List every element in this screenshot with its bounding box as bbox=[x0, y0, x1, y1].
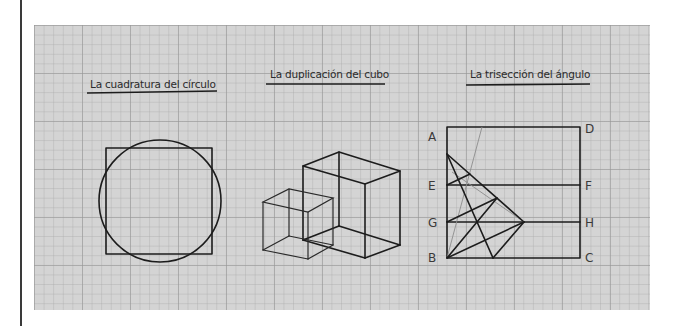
label-point-C: C bbox=[585, 251, 593, 265]
circle-shape bbox=[99, 140, 221, 262]
label-point-E: E bbox=[428, 179, 436, 193]
label-point-F: F bbox=[585, 179, 592, 193]
small-cube bbox=[263, 189, 333, 259]
label-point-G: G bbox=[428, 216, 437, 230]
title-underline bbox=[87, 91, 217, 93]
label-point-A: A bbox=[428, 130, 437, 144]
panel-trisecting-angle: La trisección del ángulo A D E F G H B C bbox=[428, 68, 594, 265]
geometry-figures: La cuadratura del círculo La duplicación… bbox=[0, 0, 674, 326]
panel-doubling-cube: La duplicación del cubo bbox=[263, 68, 400, 259]
label-point-B: B bbox=[428, 251, 436, 265]
label-point-H: H bbox=[585, 216, 594, 230]
panel-squaring-circle: La cuadratura del círculo bbox=[87, 78, 221, 262]
trisection-lines bbox=[447, 154, 524, 258]
panel-title-cube: La duplicación del cubo bbox=[270, 68, 389, 80]
rectangle-ABCD bbox=[447, 127, 580, 258]
panel-title-angle: La trisección del ángulo bbox=[470, 68, 590, 80]
panel-title-circle: La cuadratura del círculo bbox=[90, 78, 216, 90]
title-underline bbox=[466, 84, 590, 85]
label-point-D: D bbox=[585, 122, 594, 136]
square-shape bbox=[106, 148, 212, 254]
